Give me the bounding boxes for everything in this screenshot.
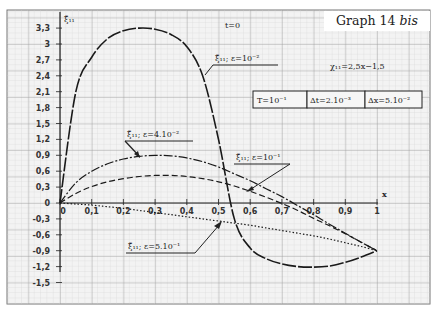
y-tick-label: -0,3 [33, 215, 51, 224]
graph-title: Graph 14 bis [324, 11, 430, 31]
y-tick-label: 0,3 [36, 183, 50, 192]
x-tick-label: 1 [374, 207, 380, 216]
x-tick-label: 0,4 [180, 207, 195, 216]
y-tick-label: -0,6 [33, 231, 51, 240]
y-tick-label: 1,2 [36, 135, 50, 144]
y-tick-label: 3,3 [36, 24, 50, 33]
y-tick-label: 2,4 [36, 72, 51, 81]
graph-paper-chart: 3,332,72,42,11,81,51,20,90,60,30-0,3-0,6… [0, 0, 435, 318]
x-tick-label: 0,9 [338, 207, 353, 216]
param-T: T=10⁻¹ [257, 96, 287, 105]
chi-formula: χ₁₁=2,5x−1,5 [330, 62, 385, 71]
x-tick-label: 0,3 [148, 207, 162, 216]
x-axis-label: x [382, 189, 387, 199]
y-tick-label: -1,2 [33, 263, 51, 272]
svg-text:ξ̃₁₁; ε=10⁻¹: ξ̃₁₁; ε=10⁻¹ [236, 153, 281, 162]
x-tick-label: 0,7 [275, 207, 289, 216]
param-dt: Δt=2.10⁻³ [310, 96, 351, 105]
y-tick-label: 2,7 [36, 56, 50, 65]
x-tick-label: 0,1 [85, 207, 100, 216]
y-tick-label: -0,9 [33, 247, 51, 256]
y-tick-label: 0,6 [36, 167, 51, 176]
time-label: t=0 [225, 21, 240, 30]
x-tick-label: 0 [60, 207, 66, 216]
y-tick-label: 0 [44, 199, 50, 208]
x-tick-label: 0,5 [211, 207, 226, 216]
y-tick-label: 1,5 [36, 120, 51, 129]
svg-text:ξ̃₁₁; ε=5.10⁻¹: ξ̃₁₁; ε=5.10⁻¹ [128, 242, 180, 251]
y-tick-label: -1,5 [33, 279, 51, 288]
params-box: T=10⁻¹ Δt=2.10⁻³ Δx=5.10⁻² [253, 91, 422, 108]
y-tick-label: 1,8 [36, 104, 51, 113]
y-axis-label: ξ̃₁₁ [64, 15, 75, 24]
x-tick-label: 0,6 [243, 207, 258, 216]
svg-text:ξ̃₁₁; ε=4.10⁻²: ξ̃₁₁; ε=4.10⁻² [127, 130, 179, 139]
param-dx: Δx=5.10⁻² [368, 96, 410, 105]
y-tick-label: 0,9 [36, 151, 51, 160]
y-tick-label: 3 [44, 40, 50, 49]
y-tick-label: 2,1 [36, 88, 51, 97]
svg-text:ξ̃₁₁; ε=10⁻²: ξ̃₁₁; ε=10⁻² [215, 54, 260, 63]
